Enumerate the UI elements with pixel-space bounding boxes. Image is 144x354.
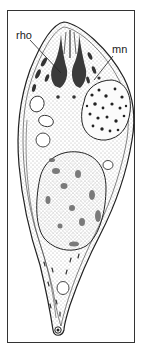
posterior-knob [55,327,61,333]
label-mn: mn [112,44,127,55]
lower-nucleus [37,152,106,250]
label-rho: rho [16,30,32,41]
